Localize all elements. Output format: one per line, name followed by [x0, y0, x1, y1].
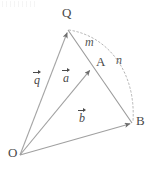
point-label-B: B	[136, 114, 145, 127]
vector-diagram-figure: O Q A B m n q a b	[0, 0, 154, 171]
vector-label-b: b	[78, 108, 86, 124]
ratio-label-n: n	[116, 54, 122, 66]
vector-label-b-text: b	[78, 112, 86, 124]
point-label-A: A	[96, 55, 105, 68]
vector-label-q-text: q	[33, 74, 41, 86]
vector-arrow-icon	[62, 68, 70, 73]
vector-label-a-text: a	[62, 72, 70, 84]
vector-label-q: q	[33, 70, 41, 86]
vector-arrow-icon	[33, 70, 41, 75]
vector-arrow-icon	[78, 108, 86, 113]
point-label-O: O	[8, 146, 17, 159]
vector-b-line	[20, 124, 130, 155]
vector-label-a: a	[62, 68, 70, 84]
vector-q-line	[20, 33, 67, 156]
vector-diagram-canvas	[0, 0, 154, 171]
ratio-label-m: m	[85, 36, 94, 48]
point-label-Q: Q	[62, 6, 71, 19]
